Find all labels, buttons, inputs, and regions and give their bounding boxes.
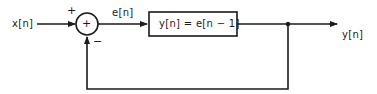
summing-center-symbol: + (82, 18, 91, 29)
block-equation: y[n] = e[n − 1] (159, 19, 240, 29)
error-label: e[n] (112, 8, 134, 18)
output-label: y[n] (342, 30, 363, 40)
input-plus-sign: + (67, 5, 76, 16)
block-diagram-canvas (0, 0, 377, 94)
feedback-path (87, 24, 288, 89)
input-label: x[n] (12, 19, 33, 29)
feedback-minus-sign: − (93, 36, 102, 47)
